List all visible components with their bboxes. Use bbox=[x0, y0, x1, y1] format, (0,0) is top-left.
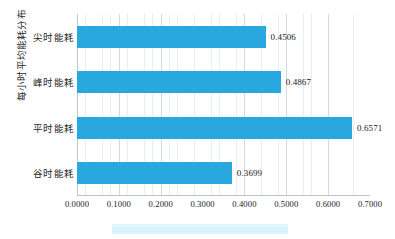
value-axis-tick-labels: 0.00000.10000.20000.30000.40000.50000.60… bbox=[77, 199, 370, 213]
value-tick-label: 0.6000 bbox=[316, 199, 340, 209]
category-tick: 峰时能耗 bbox=[22, 60, 74, 106]
value-tick-label: 0.3000 bbox=[190, 199, 214, 209]
category-tick-label: 谷时能耗 bbox=[33, 166, 74, 180]
bar-row: 0.6571 bbox=[77, 105, 370, 151]
bar-series-0-category-3[interactable] bbox=[77, 162, 232, 184]
value-tick-label: 0.5000 bbox=[274, 199, 298, 209]
category-tick: 平时能耗 bbox=[22, 105, 74, 151]
bar-value-label: 0.4506 bbox=[271, 32, 296, 42]
bar-row: 0.4506 bbox=[77, 14, 370, 60]
bar-series-0-category-2[interactable] bbox=[77, 117, 352, 139]
value-axis-line bbox=[77, 195, 370, 196]
bar-value-label: 0.4867 bbox=[286, 77, 311, 87]
category-axis-tick-labels: 尖时能耗 峰时能耗 平时能耗 谷时能耗 bbox=[22, 14, 74, 196]
bar-series-0-category-1[interactable] bbox=[77, 71, 281, 93]
bar-row: 0.4867 bbox=[77, 60, 370, 106]
category-tick-label: 平时能耗 bbox=[33, 121, 74, 135]
category-tick-label: 尖时能耗 bbox=[33, 30, 74, 44]
category-tick: 谷时能耗 bbox=[22, 151, 74, 197]
plot-area: 0.4506 0.4867 0.6571 0.3699 bbox=[77, 14, 370, 196]
legend-band-inner bbox=[112, 227, 288, 232]
value-tick-label: 0.7000 bbox=[358, 199, 382, 209]
bar-value-label: 0.6571 bbox=[357, 123, 382, 133]
value-tick-label: 0.0000 bbox=[65, 199, 89, 209]
bar-series-0-category-0[interactable] bbox=[77, 26, 266, 48]
bar-row: 0.3699 bbox=[77, 151, 370, 197]
category-tick: 尖时能耗 bbox=[22, 14, 74, 60]
value-tick-label: 0.4000 bbox=[232, 199, 256, 209]
value-tick-label: 0.1000 bbox=[107, 199, 131, 209]
bars-layer: 0.4506 0.4867 0.6571 0.3699 bbox=[77, 14, 370, 196]
bar-value-label: 0.3699 bbox=[237, 168, 262, 178]
legend-band bbox=[112, 224, 288, 234]
category-tick-label: 峰时能耗 bbox=[33, 75, 74, 89]
value-tick-label: 0.2000 bbox=[149, 199, 173, 209]
bar-chart: 每小时平均能耗分布 尖时能耗 峰时能耗 平时能耗 谷时能耗 0.4506 0.4… bbox=[0, 0, 395, 239]
